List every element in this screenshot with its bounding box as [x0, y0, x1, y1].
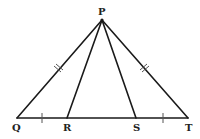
label-q: Q: [12, 122, 21, 133]
segment-pq: [17, 20, 102, 118]
label-r: R: [63, 122, 72, 133]
segment-ps: [102, 20, 136, 118]
label-p: P: [98, 6, 106, 17]
vertex-p-dot: [100, 18, 103, 21]
label-s: S: [133, 122, 140, 133]
segment-pr: [67, 20, 102, 118]
label-t: T: [185, 122, 193, 133]
triangle-diagram: P Q R S T: [0, 0, 200, 139]
